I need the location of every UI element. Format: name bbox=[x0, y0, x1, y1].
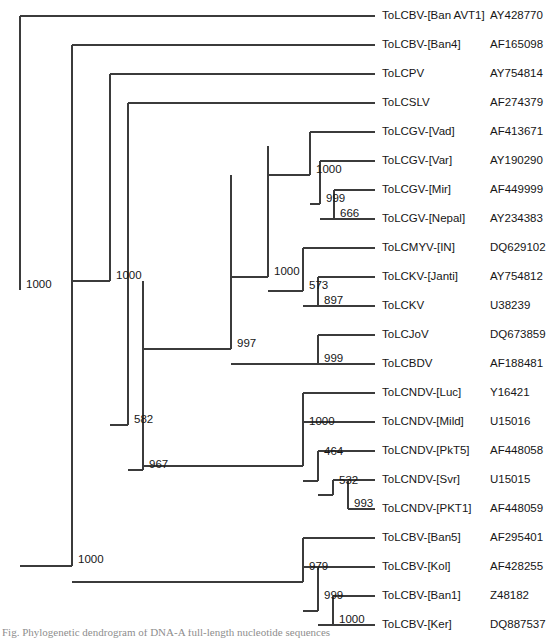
taxon-label: ToLCSLV bbox=[382, 97, 430, 109]
support-value-n18: 979 bbox=[309, 561, 328, 573]
support-value-root: 1000 bbox=[26, 279, 52, 291]
accession-label: AF413671 bbox=[490, 126, 543, 138]
taxon-label: ToLCNDV-[PkT5] bbox=[382, 445, 470, 457]
support-value-n15: 464 bbox=[324, 446, 343, 458]
accession-label: AY234383 bbox=[490, 213, 543, 225]
accession-label: AY754812 bbox=[490, 271, 543, 283]
accession-label: AF165098 bbox=[490, 39, 543, 51]
accession-label: AY428770 bbox=[490, 10, 543, 22]
taxon-label: ToLCBV-[Ban AVT1] bbox=[382, 10, 485, 22]
support-value-n16: 532 bbox=[339, 475, 358, 487]
taxon-label: ToLCNDV-[Mild] bbox=[382, 416, 464, 428]
support-value-n12: 897 bbox=[324, 295, 343, 307]
figure-caption-strip: Fig. Phylogenetic dendrogram of DNA-A fu… bbox=[0, 629, 546, 640]
accession-label: DQ629102 bbox=[490, 242, 546, 254]
taxon-label: ToLCJoV bbox=[382, 329, 429, 341]
accession-label: U15015 bbox=[490, 474, 530, 486]
support-value-n5: 967 bbox=[149, 459, 168, 471]
taxon-label: ToLCKV-[Janti] bbox=[382, 271, 458, 283]
taxon-label: ToLCGV-[Vad] bbox=[382, 126, 455, 138]
tree-branch-canvas bbox=[0, 0, 546, 640]
support-value-n13: 999 bbox=[324, 353, 343, 365]
figure-caption: Fig. Phylogenetic dendrogram of DNA-A fu… bbox=[2, 629, 330, 638]
taxon-label: ToLCMYV-[IN] bbox=[382, 242, 455, 254]
support-value-n6: 997 bbox=[237, 338, 256, 350]
taxon-label: ToLCBV-[Ban5] bbox=[382, 532, 461, 544]
taxon-label: ToLCBDV bbox=[382, 358, 433, 370]
taxon-label: ToLCGV-[Nepal] bbox=[382, 213, 465, 225]
accession-label: AF448058 bbox=[490, 445, 543, 457]
taxon-label: ToLCBV-[Kol] bbox=[382, 561, 450, 573]
taxon-label: ToLCBV-[Ban4] bbox=[382, 39, 461, 51]
support-value-n10: 666 bbox=[340, 208, 359, 220]
taxon-label: ToLCGV-[Var] bbox=[382, 155, 452, 167]
taxon-label: ToLCKV bbox=[382, 300, 424, 312]
accession-label: AF188481 bbox=[490, 358, 543, 370]
accession-label: DQ673859 bbox=[490, 329, 546, 341]
taxon-label: ToLCPV bbox=[382, 68, 424, 80]
taxon-label: ToLCNDV-[Svr] bbox=[382, 474, 460, 486]
support-value-n19: 999 bbox=[324, 590, 343, 602]
support-value-n20: 1000 bbox=[339, 614, 365, 626]
accession-label: AY190290 bbox=[490, 155, 543, 167]
accession-label: AF428255 bbox=[490, 561, 543, 573]
support-value-n9: 999 bbox=[326, 193, 345, 205]
support-value-n2: 1000 bbox=[78, 554, 104, 566]
accession-label: AF449999 bbox=[490, 184, 543, 196]
phylogenetic-tree-figure: 1000100010005829679971000100099966657389… bbox=[0, 0, 546, 640]
accession-label: AY754814 bbox=[490, 68, 543, 80]
taxon-label: ToLCNDV-[PKT1] bbox=[382, 503, 471, 515]
support-value-n8: 1000 bbox=[316, 164, 342, 176]
support-value-n11: 573 bbox=[309, 280, 328, 292]
taxon-label: ToLCGV-[Mir] bbox=[382, 184, 451, 196]
accession-label: Z48182 bbox=[490, 590, 529, 602]
accession-label: AF274379 bbox=[490, 97, 543, 109]
branch-layer bbox=[20, 16, 375, 625]
taxon-label: ToLCBV-[Ban1] bbox=[382, 590, 461, 602]
accession-label: AF448059 bbox=[490, 503, 543, 515]
support-value-n7: 1000 bbox=[274, 266, 300, 278]
support-value-n3: 1000 bbox=[116, 270, 142, 282]
accession-label: AF295401 bbox=[490, 532, 543, 544]
accession-label: Y16421 bbox=[490, 387, 530, 399]
support-value-n14: 1000 bbox=[309, 416, 335, 428]
support-value-n17: 993 bbox=[354, 498, 373, 510]
accession-label: U15016 bbox=[490, 416, 530, 428]
support-value-n4: 582 bbox=[134, 414, 153, 426]
taxon-label: ToLCNDV-[Luc] bbox=[382, 387, 461, 399]
accession-label: U38239 bbox=[490, 300, 530, 312]
